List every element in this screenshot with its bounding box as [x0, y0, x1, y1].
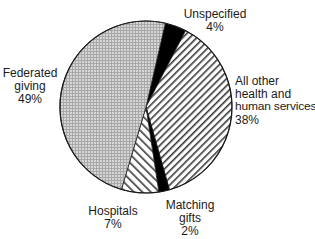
- label-all-other-pct: 38%: [235, 114, 315, 127]
- label-unspecified-pct: 4%: [180, 21, 250, 34]
- label-all-other-line2: health and: [235, 88, 315, 101]
- label-federated-pct: 49%: [0, 93, 60, 106]
- label-federated: Federated giving 49%: [0, 67, 60, 106]
- label-matching-pct: 2%: [160, 225, 220, 238]
- label-all-other: All other health and human services 38%: [235, 75, 315, 127]
- label-matching-gifts: Matching gifts 2%: [160, 199, 220, 238]
- pie-slices: [60, 21, 232, 193]
- label-unspecified: Unspecified 4%: [180, 8, 250, 34]
- label-all-other-line3: human services: [235, 101, 315, 112]
- label-hospitals: Hospitals 7%: [78, 205, 148, 231]
- label-hospitals-pct: 7%: [78, 218, 148, 231]
